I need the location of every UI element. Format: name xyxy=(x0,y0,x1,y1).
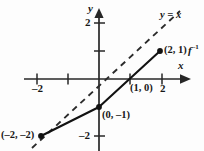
curve-label-exponent: –1 xyxy=(192,43,199,51)
point-marker-2-1 xyxy=(157,48,163,54)
point-label-neg2-neg2: (–2, –2) xyxy=(1,130,34,141)
y-tick-label-neg2: –2 xyxy=(79,130,90,141)
x-axis-label: x xyxy=(178,60,184,71)
graph-figure: y = x f–1 (2, 1) (1, 0) (0, –1) (–2, –2)… xyxy=(0,0,204,151)
y-axis-label: y xyxy=(88,3,93,14)
point-label-2-1: (2, 1) xyxy=(164,45,187,56)
point-marker-neg2-neg2 xyxy=(38,133,44,139)
x-tick-label-2: 2 xyxy=(160,83,166,94)
y-tick-label-2: 2 xyxy=(85,17,91,28)
curve-label-f-inverse: f–1 xyxy=(188,44,199,56)
point-label-0-neg1: (0, –1) xyxy=(102,110,130,121)
x-tick-label-neg2: –2 xyxy=(32,83,43,94)
point-label-1-0: (1, 0) xyxy=(130,83,153,94)
identity-line-label: y = x xyxy=(160,10,181,21)
